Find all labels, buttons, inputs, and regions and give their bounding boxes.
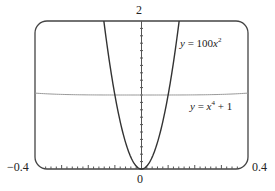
eq1-sup: 2 — [218, 36, 222, 44]
y-tick-label-top: 2 — [136, 3, 142, 18]
plot-canvas — [0, 0, 275, 191]
eq2-rest: + 1 — [215, 100, 232, 112]
equation-label-quartic: y = x4 + 1 — [190, 99, 232, 112]
x-origin-label: 0 — [137, 172, 143, 187]
x-tick-label-right: 0.4 — [252, 160, 267, 175]
eq2-mid: = — [195, 100, 207, 112]
x-tick-label-left: −0.4 — [7, 160, 29, 175]
eq1-rest: = 100 — [185, 37, 213, 49]
equation-label-parabola: y = 100x2 — [180, 36, 222, 49]
